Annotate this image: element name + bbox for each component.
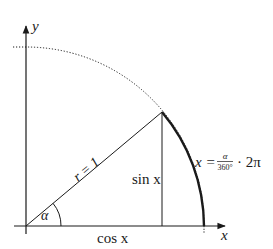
angle-arc	[53, 203, 61, 226]
arc-length-formula: x = α 360° · 2π	[194, 151, 261, 172]
cos-label: cos x	[97, 230, 129, 246]
formula-denominator: 360°	[217, 163, 232, 172]
formula-numerator: α	[223, 151, 228, 161]
dotted-circle-arc	[13, 47, 204, 226]
angle-label: α	[41, 208, 49, 223]
radius-label: r = 1	[70, 154, 102, 184]
sin-label: sin x	[132, 171, 161, 187]
formula-lhs: x =	[194, 154, 216, 170]
y-axis-label: y	[30, 18, 39, 34]
formula-rhs: · 2π	[237, 154, 261, 170]
unit-circle-diagram: y x r = 1 α sin x cos x x = α 360° · 2π	[0, 0, 273, 249]
x-axis-label: x	[220, 227, 228, 243]
